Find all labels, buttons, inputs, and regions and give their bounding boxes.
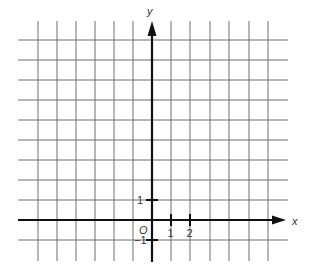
x-axis-arrow-icon	[272, 216, 286, 225]
y-axis-arrow-icon	[148, 21, 157, 36]
coordinate-grid-diagram: y x O 1 2 1 −1	[0, 0, 312, 270]
x-axis-label: x	[291, 215, 298, 227]
y-tick-label-neg1: −1	[134, 234, 147, 246]
y-tick-label-1: 1	[137, 194, 143, 206]
y-axis-label: y	[146, 5, 154, 17]
x-tick-label-1: 1	[168, 227, 174, 239]
x-tick-label-2: 2	[187, 227, 193, 239]
